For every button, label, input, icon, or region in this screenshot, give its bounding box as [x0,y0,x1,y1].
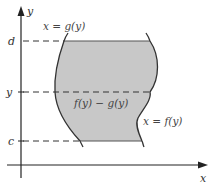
tick-label-c: c [8,135,14,148]
tick-label-y: y [5,86,13,99]
y-axis-arrow-icon [18,6,25,16]
curve-f-label: x = f(y) [143,115,182,127]
strip-length-label: f(y) − g(y) [73,97,128,109]
x-axis-arrow-icon [198,162,208,169]
y-axis-label: y [26,5,34,18]
curve-g-label: x = g(y) [43,20,85,32]
area-diagram: y x d y c x = g(y) x = f(y) f(y) − g(y) [0,0,215,187]
tick-label-d: d [8,35,15,48]
x-axis-label: x [200,172,207,185]
